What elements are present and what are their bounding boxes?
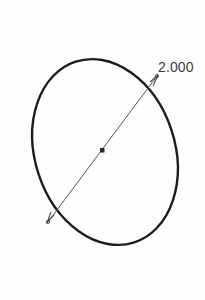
- sketch-canvas[interactable]: 2.000: [0, 0, 205, 300]
- major-axis-dimension-group[interactable]: [46, 74, 159, 223]
- endpoint-marker-lower[interactable]: [46, 212, 54, 224]
- center-point-marker[interactable]: [100, 148, 105, 153]
- sketch-drawing-area[interactable]: [0, 0, 205, 300]
- dimension-value-label[interactable]: 2.000: [158, 60, 194, 74]
